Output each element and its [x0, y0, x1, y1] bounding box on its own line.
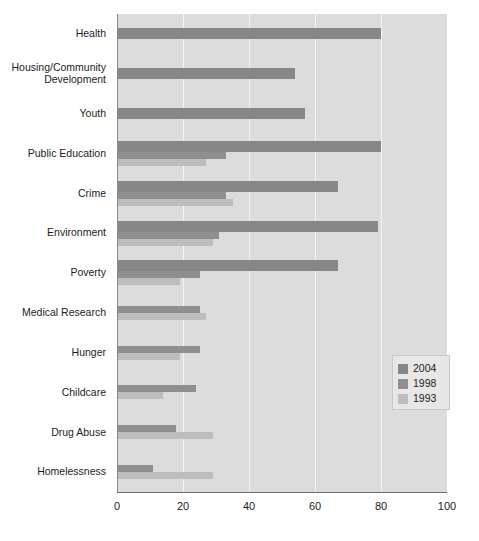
bar	[117, 432, 213, 439]
category-label: Homelessness	[37, 466, 106, 478]
y-axis-line	[117, 14, 118, 492]
legend-label: 1998	[413, 378, 436, 389]
category-label: Drug Abuse	[51, 427, 106, 439]
x-tick-label: 100	[438, 500, 456, 512]
category-label: Public Education	[28, 148, 106, 160]
bar	[117, 385, 196, 392]
bar	[117, 152, 226, 159]
legend-label: 1993	[413, 393, 436, 404]
legend-swatch-icon	[398, 364, 408, 374]
gridline-x-80	[381, 14, 382, 492]
bar	[117, 199, 233, 206]
gridline-x-20	[183, 14, 184, 492]
bar	[117, 28, 381, 39]
bar	[117, 465, 153, 472]
bar	[117, 108, 305, 119]
category-label: Health	[76, 28, 106, 40]
x-tick-label: 40	[243, 500, 255, 512]
bar	[117, 472, 213, 479]
bar	[117, 353, 180, 360]
gridline-x-60	[315, 14, 316, 492]
bar	[117, 192, 226, 199]
plot-area	[117, 14, 447, 492]
bar	[117, 346, 200, 353]
bar	[117, 141, 381, 152]
bar	[117, 260, 338, 271]
bar	[117, 392, 163, 399]
category-label: Poverty	[70, 267, 106, 279]
bar	[117, 68, 295, 79]
bar	[117, 221, 378, 232]
bar	[117, 159, 206, 166]
category-label: Childcare	[62, 387, 106, 399]
bar	[117, 239, 213, 246]
bar	[117, 425, 176, 432]
legend-item[interactable]: 1998	[398, 376, 445, 391]
category-label: Environment	[47, 227, 106, 239]
category-axis-labels: HealthHousing/Community DevelopmentYouth…	[0, 14, 112, 492]
bar	[117, 278, 180, 285]
x-tick-label: 20	[177, 500, 189, 512]
gridline-x-40	[249, 14, 250, 492]
category-label: Youth	[80, 108, 106, 120]
category-label: Housing/Community Development	[11, 62, 106, 85]
category-label: Medical Research	[22, 307, 106, 319]
bar	[117, 313, 206, 320]
bar	[117, 271, 200, 278]
bar-chart: HealthHousing/Community DevelopmentYouth…	[0, 0, 479, 541]
x-tick-label: 80	[375, 500, 387, 512]
legend-item[interactable]: 2004	[398, 361, 445, 376]
chart-legend: 200419981993	[392, 355, 450, 410]
bar	[117, 232, 219, 239]
bar	[117, 306, 200, 313]
legend-swatch-icon	[398, 394, 408, 404]
category-label: Hunger	[72, 347, 106, 359]
legend-item[interactable]: 1993	[398, 391, 445, 406]
category-label: Crime	[78, 188, 106, 200]
x-tick-label: 0	[114, 500, 120, 512]
x-tick-label: 60	[309, 500, 321, 512]
legend-swatch-icon	[398, 379, 408, 389]
legend-label: 2004	[413, 363, 436, 374]
bar	[117, 181, 338, 192]
x-axis-tick-labels: 020406080100	[117, 493, 447, 523]
